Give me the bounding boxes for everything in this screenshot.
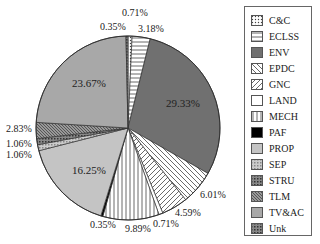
legend-swatch [251, 159, 263, 170]
legend-item: PAF [251, 125, 286, 139]
legend-swatch [251, 111, 263, 122]
legend-label: ECLSS [269, 31, 299, 42]
legend-swatch [251, 31, 263, 42]
legend-item: MECH [251, 109, 298, 123]
label-eclss: 3.18% [138, 24, 164, 34]
legend-item: SEP [251, 157, 286, 171]
legend-swatch [251, 175, 263, 186]
legend-label: STRU [269, 175, 295, 186]
legend-swatch [251, 47, 263, 58]
legend-label: MECH [269, 111, 298, 122]
legend-label: C&C [269, 15, 290, 26]
legend-label: SEP [269, 159, 286, 170]
legend-swatch [251, 79, 263, 90]
legend-item: PROP [251, 141, 294, 155]
label-cc: 0.71% [122, 8, 148, 18]
legend-swatch [251, 95, 263, 106]
label-tvac: 23.67% [72, 78, 106, 89]
legend-item: EPDC [251, 61, 295, 75]
legend: C&C ECLSS ENV EPDC GNC [244, 6, 312, 236]
legend-item: TV&AC [251, 205, 304, 219]
label-tlm: 2.83% [6, 124, 32, 134]
legend-label: TV&AC [269, 207, 304, 218]
legend-swatch [251, 143, 263, 154]
label-stru: 1.06% [6, 139, 32, 149]
legend-swatch [251, 127, 263, 138]
label-epdc: 6.01% [200, 190, 226, 200]
legend-swatch [251, 223, 263, 234]
legend-swatch [251, 191, 263, 202]
legend-item: ENV [251, 45, 290, 59]
legend-item: TLM [251, 189, 290, 203]
label-mech: 9.89% [125, 224, 151, 234]
legend-swatch [251, 207, 263, 218]
legend-item: C&C [251, 13, 290, 27]
label-prop: 16.25% [72, 165, 106, 176]
legend-label: TLM [269, 191, 290, 202]
legend-swatch [251, 15, 263, 26]
legend-label: LAND [269, 95, 297, 106]
label-land: 0.71% [153, 219, 179, 229]
legend-label: GNC [269, 79, 290, 90]
legend-item: STRU [251, 173, 295, 187]
legend-label: PROP [269, 143, 294, 154]
label-paf: 0.35% [90, 220, 116, 230]
legend-label: ENV [269, 47, 290, 58]
legend-swatch [251, 63, 263, 74]
pie-chart [0, 0, 240, 244]
label-gnc: 4.59% [175, 208, 201, 218]
label-env: 29.33% [166, 98, 200, 109]
legend-item: Unk [251, 221, 286, 235]
legend-label: Unk [269, 223, 286, 234]
legend-item: LAND [251, 93, 297, 107]
legend-label: PAF [269, 127, 286, 138]
legend-label: EPDC [269, 63, 295, 74]
label-sep: 1.06% [6, 150, 32, 160]
legend-item: GNC [251, 77, 290, 91]
label-unk: 0.35% [100, 22, 126, 32]
legend-item: ECLSS [251, 29, 299, 43]
